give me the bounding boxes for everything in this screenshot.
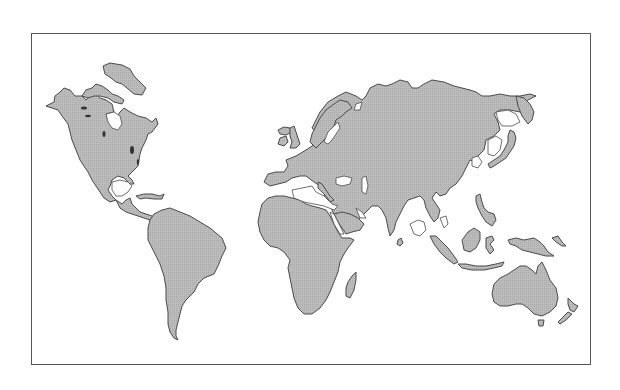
south-america <box>148 208 226 340</box>
sea-of-japan <box>488 136 502 156</box>
gulf-of-thailand <box>440 216 448 228</box>
north-america <box>46 88 158 202</box>
tasmania <box>538 320 544 326</box>
borneo <box>462 228 480 252</box>
east-coast-detail <box>137 159 139 165</box>
sri-lanka <box>397 238 403 246</box>
great-slave-lake <box>85 115 91 117</box>
sumatra <box>430 236 458 264</box>
world-map <box>0 0 620 390</box>
sea-of-okhotsk <box>496 110 520 126</box>
great-bear-lake <box>81 107 87 110</box>
new-zealand-north <box>568 298 578 312</box>
new-zealand-south <box>558 312 572 324</box>
caribbean-cuba <box>136 194 164 199</box>
australia <box>492 262 558 316</box>
great-lakes <box>130 146 134 154</box>
philippines <box>476 194 496 226</box>
greenland <box>103 63 146 95</box>
madagascar <box>346 272 356 298</box>
lake-winnipeg <box>103 131 106 137</box>
java <box>458 262 504 270</box>
bay-of-bengal <box>410 220 426 236</box>
central-america <box>116 198 156 220</box>
british-isles <box>290 126 300 148</box>
black-sea <box>336 176 352 186</box>
new-guinea <box>508 238 554 256</box>
solomon-islands <box>552 236 566 246</box>
sulawesi <box>486 236 494 254</box>
yellow-sea <box>472 156 482 168</box>
ireland <box>278 136 288 146</box>
